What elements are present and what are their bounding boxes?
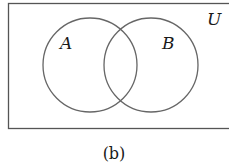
venn-diagram: A B U (b) bbox=[0, 0, 229, 166]
universe-label: U bbox=[207, 9, 222, 29]
universe-rectangle bbox=[9, 4, 230, 129]
figure-caption: (b) bbox=[103, 144, 126, 163]
set-a-circle bbox=[43, 18, 137, 112]
set-b-label: B bbox=[161, 33, 175, 53]
set-a-label: A bbox=[58, 33, 72, 53]
set-b-circle bbox=[104, 18, 198, 112]
